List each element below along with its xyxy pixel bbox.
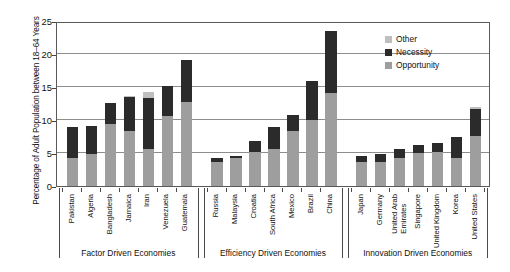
x-tick-mark	[62, 188, 63, 192]
bar-segment-necessity	[124, 97, 135, 131]
bar-segment-necessity	[268, 127, 279, 149]
bar-segment-opportunity	[325, 93, 336, 186]
x-tick-mark	[389, 188, 390, 192]
bar-segment-necessity	[306, 81, 317, 120]
x-tick-mark	[138, 188, 139, 192]
x-tick-label: Pakistan	[68, 194, 77, 223]
bar-brazil	[306, 81, 317, 186]
legend-swatch-necessity	[385, 49, 392, 56]
y-tick-label: 25	[30, 17, 52, 26]
group-label: Efficiency Driven Economies	[204, 248, 343, 258]
bar-segment-opportunity	[181, 102, 192, 186]
bar-korea	[451, 137, 462, 186]
x-tick-mark	[370, 188, 371, 192]
bar-segment-necessity	[413, 145, 424, 153]
bar-south-africa	[268, 127, 279, 186]
x-tick-label: Singapore	[414, 194, 423, 229]
group-separator	[487, 188, 488, 258]
x-tick-label: Korea	[452, 194, 461, 214]
bar-segment-other	[124, 96, 135, 97]
bar-segment-opportunity	[306, 120, 317, 186]
bar-iran	[143, 92, 154, 186]
bar-russia	[211, 158, 222, 186]
bar-segment-necessity	[249, 141, 260, 152]
bar-segment-necessity	[211, 158, 222, 162]
bar-segment-necessity	[394, 149, 405, 158]
bar-segment-necessity	[356, 156, 367, 162]
x-tick-label: Russia	[212, 194, 221, 217]
x-tick-mark	[207, 188, 208, 192]
bar-guatemala	[181, 60, 192, 186]
bar-segment-opportunity	[432, 152, 443, 186]
x-tick-label: Venezuela	[162, 194, 171, 229]
legend-item-opportunity: Opportunity	[385, 59, 485, 71]
bar-germany	[375, 154, 386, 186]
x-tick-label: Guatemala	[181, 194, 190, 231]
x-tick-label: Mexico	[288, 194, 297, 218]
bar-japan	[356, 156, 367, 186]
bar-segment-necessity	[105, 103, 116, 124]
x-tick-mark	[427, 188, 428, 192]
legend-label: Necessity	[396, 47, 432, 57]
bar-segment-opportunity	[249, 152, 260, 186]
x-tick-label: Brazil	[307, 194, 316, 213]
legend-label: Other	[396, 34, 417, 44]
x-tick-label: Iran	[143, 194, 152, 207]
bar-segment-opportunity	[230, 158, 241, 186]
bar-segment-necessity	[451, 137, 462, 158]
x-tick-mark	[320, 188, 321, 192]
bar-segment-necessity	[230, 156, 241, 159]
legend: OtherNecessityOpportunity	[385, 33, 485, 72]
bar-segment-opportunity	[211, 162, 222, 186]
bar-segment-necessity	[432, 143, 443, 152]
x-tick-label: United Kingdom	[433, 194, 442, 248]
x-tick-label: Croatia	[250, 194, 259, 218]
x-tick-mark	[301, 188, 302, 192]
x-tick-mark	[81, 188, 82, 192]
chart-container: Percentage of Adult Population between 1…	[0, 0, 510, 272]
group-separator	[198, 188, 199, 258]
x-tick-mark	[282, 188, 283, 192]
x-tick-label: Jamaica	[125, 194, 134, 222]
x-tick-label: South Africa	[269, 194, 278, 235]
bar-segment-opportunity	[67, 158, 78, 186]
bar-segment-opportunity	[124, 131, 135, 186]
bar-segment-opportunity	[470, 136, 481, 186]
y-tick-label: 0	[30, 182, 52, 191]
bar-segment-other	[143, 92, 154, 98]
bar-segment-opportunity	[268, 149, 279, 186]
bar-segment-opportunity	[143, 149, 154, 186]
bar-segment-opportunity	[451, 158, 462, 186]
x-tick-mark	[157, 188, 158, 192]
bar-segment-other	[470, 107, 481, 109]
x-tick-label: Bangladesh	[106, 194, 115, 234]
bar-segment-necessity	[143, 98, 154, 149]
bar-united-kingdom	[432, 143, 443, 186]
bar-jamaica	[124, 96, 135, 186]
bar-mexico	[287, 115, 298, 186]
x-tick-mark	[408, 188, 409, 192]
x-tick-mark	[226, 188, 227, 192]
legend-swatch-other	[385, 36, 392, 43]
bar-segment-opportunity	[287, 131, 298, 186]
x-tick-label: United States	[471, 194, 480, 240]
x-tick-label: China	[326, 194, 335, 214]
group-label: Factor Driven Economies	[59, 248, 198, 258]
y-tick-label: 15	[30, 83, 52, 92]
bar-segment-necessity	[325, 31, 336, 93]
x-tick-mark	[351, 188, 352, 192]
x-tick-label: Malaysia	[231, 194, 240, 224]
legend-item-other: Other	[385, 33, 485, 45]
x-tick-label: Germany	[376, 194, 385, 225]
bar-segment-necessity	[181, 60, 192, 102]
x-tick-mark	[119, 188, 120, 192]
bar-segment-opportunity	[162, 116, 173, 186]
legend-swatch-opportunity	[385, 62, 392, 69]
x-tick-mark	[245, 188, 246, 192]
bar-segment-necessity	[67, 127, 78, 159]
x-tick-mark	[176, 188, 177, 192]
bar-china	[325, 31, 336, 186]
bar-segment-opportunity	[413, 153, 424, 186]
bar-segment-necessity	[86, 126, 97, 154]
bar-singapore	[413, 145, 424, 186]
